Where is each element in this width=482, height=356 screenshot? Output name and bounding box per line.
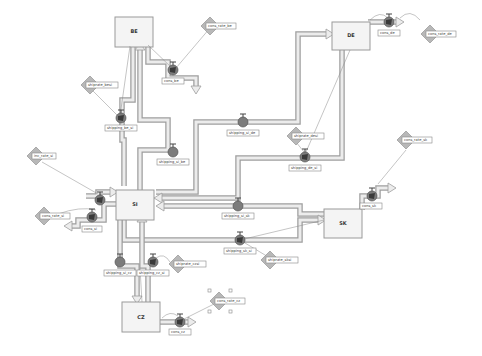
aux-inc-rate-si[interactable]: inc_rate_si — [27, 147, 56, 165]
aux-label-shiprate-desi: shiprate_desi — [294, 134, 318, 138]
stock-si[interactable]: SI — [116, 190, 154, 220]
aux-label-cons-rate-cz: cons_rate_cz — [217, 299, 240, 303]
flow-label-shipping-si-be: shipping_si_be — [159, 160, 186, 164]
aux-shiprate-besi[interactable]: shiprate_besi — [81, 76, 118, 94]
flow-label-shipping-be-si: shipping_be_si — [107, 126, 133, 130]
links — [42, 13, 420, 320]
flow-shipping-sk-si[interactable]: shipping_sk_si — [224, 232, 256, 254]
stock-be[interactable]: BE — [115, 17, 153, 47]
aux-cons-rate-si[interactable]: cons_rate_si — [35, 207, 70, 225]
aux-cons-rate-cz[interactable]: cons_rate_cz — [208, 289, 245, 313]
aux-label-shiprate-besi: shiprate_besi — [88, 83, 112, 87]
flow-label-shipping-si-cz: shipping_si_cz — [106, 271, 132, 275]
flow-label-cons-be: cons_be — [164, 79, 179, 83]
valve-icon — [115, 254, 125, 267]
flow-label-shipping-de-si: shipping_de_si — [291, 166, 317, 170]
flow-shipping-be-si[interactable]: shipping_be_si — [105, 110, 137, 131]
selection-handle[interactable] — [208, 289, 211, 292]
aux-shiprate-desi[interactable]: shiprate_desi — [287, 127, 324, 145]
aux-label-cons-rate-be: cons_rate_be — [208, 24, 232, 28]
valve-icon — [300, 149, 310, 162]
valve-icon — [148, 254, 158, 267]
aux-label-inc-rate-si: inc_rate_si — [34, 154, 53, 158]
flow-label-cons-si: cons_si — [84, 227, 97, 231]
flow-label-cons-de: cons_de — [380, 31, 395, 35]
valve-icon — [238, 114, 248, 127]
pipe-shipping-de-si[interactable] — [154, 48, 342, 203]
flow-shipping-si-be[interactable]: shipping_si_be — [157, 144, 189, 165]
aux-label-cons-rate-si: cons_rate_si — [42, 214, 64, 218]
aux-cons-rate-de[interactable]: cons_rate_de — [421, 25, 456, 43]
aux-shiprate-sksi[interactable]: shiprate_sksi — [261, 251, 298, 269]
stock-label-cz: CZ — [137, 314, 145, 320]
valve-icon — [175, 314, 185, 327]
stock-flow-diagram: BE DE SI SK CZ cons_b — [0, 0, 482, 356]
flow-label-cons-sk: cons_sk — [362, 204, 377, 208]
valve-icon — [235, 232, 245, 245]
stock-label-si: SI — [132, 201, 138, 207]
flow-label-shipping-si-sk: shipping_si_sk — [224, 214, 251, 218]
stock-label-be: BE — [130, 28, 138, 34]
valve-icon — [87, 209, 97, 222]
aux-label-cons-rate-de: cons_rate_de — [428, 32, 452, 36]
flow-label-shipping-cz-si: shipping_cz_si — [139, 271, 165, 275]
selection-handle[interactable] — [229, 289, 232, 292]
pipes — [64, 17, 404, 327]
stock-de[interactable]: DE — [332, 22, 370, 50]
selection-handle[interactable] — [229, 310, 232, 313]
stock-sk[interactable]: SK — [324, 209, 362, 238]
flow-label-cons-cz: cons_cz — [171, 330, 185, 334]
flow-label-shipping-sk-si: shipping_sk_si — [226, 249, 252, 253]
selection-handle[interactable] — [208, 310, 211, 313]
stock-label-de: DE — [347, 32, 355, 38]
pipe-shipping-si-be[interactable] — [135, 43, 168, 190]
aux-label-shiprate-czsi: shiprate_czsi — [176, 262, 199, 266]
flow-label-shipping-si-de: shipping_si_de — [229, 131, 256, 135]
aux-shiprate-czsi[interactable]: shiprate_czsi — [169, 255, 206, 273]
aux-label-shiprate-sksi: shiprate_sksi — [268, 258, 291, 262]
flow-shipping-si-de[interactable]: shipping_si_de — [227, 114, 259, 136]
stock-cz[interactable]: CZ — [122, 302, 160, 332]
aux-label-cons-rate-sk: cons_rate_sk — [404, 138, 428, 142]
aux-cons-rate-sk[interactable]: cons_rate_sk — [397, 131, 432, 149]
stock-label-sk: SK — [339, 220, 348, 226]
